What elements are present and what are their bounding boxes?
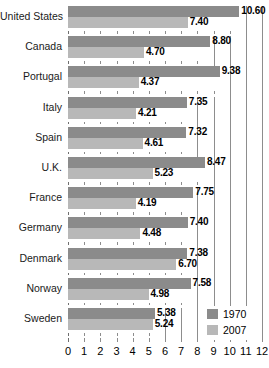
bar-2007	[68, 77, 139, 88]
bar-1970	[68, 97, 187, 108]
bar-2007	[68, 138, 143, 149]
value-label-2007: 4.19	[138, 197, 157, 208]
value-label-2007: 6.70	[178, 258, 197, 269]
bar-2007	[68, 108, 136, 119]
value-label-1970: 7.58	[193, 277, 212, 288]
value-label-2007: 5.23	[155, 167, 174, 178]
row-gap-upper	[68, 300, 191, 303]
x-tick-label: 9	[210, 345, 216, 357]
value-label-2007: 7.40	[190, 16, 209, 27]
row-gap-upper	[68, 149, 186, 152]
x-tick-label: 8	[194, 345, 200, 357]
bar-1970	[68, 36, 210, 47]
value-label-1970: 5.38	[157, 307, 176, 318]
bar-2007	[68, 168, 153, 179]
value-label-1970: 8.80	[212, 35, 231, 46]
x-tick-label: 5	[146, 345, 152, 357]
category-label: Sweden	[0, 312, 62, 324]
x-tick-label: 2	[97, 345, 103, 357]
row-gap-upper	[68, 270, 187, 273]
bar-chart: United StatesCanadaPortugalItalySpainU.K…	[0, 0, 269, 368]
bar-2007	[68, 289, 149, 300]
bar-group: 7.354.21	[68, 97, 262, 127]
bar-group: 7.404.48	[68, 217, 262, 247]
bar-1970	[68, 127, 186, 138]
bar-1970	[68, 308, 155, 319]
value-label-2007: 4.98	[151, 288, 170, 299]
legend-swatch-2007	[207, 325, 218, 335]
x-tick-label: 12	[256, 345, 268, 357]
bar-2007	[68, 198, 136, 209]
bar-2007	[68, 17, 188, 28]
legend-swatch-1970	[207, 309, 218, 319]
bar-1970	[68, 6, 239, 17]
category-label: France	[0, 191, 62, 203]
value-label-2007: 4.37	[141, 76, 160, 87]
value-label-2007: 4.70	[146, 46, 165, 57]
value-label-2007: 4.21	[138, 107, 157, 118]
category-label: Canada	[0, 40, 62, 52]
row-gap-upper	[68, 179, 205, 182]
bar-1970	[68, 248, 187, 259]
row-gap-upper	[68, 119, 187, 122]
bar-1970	[68, 217, 188, 228]
value-label-1970: 8.47	[207, 156, 226, 167]
bar-group: 7.584.98	[68, 278, 262, 308]
bar-2007	[68, 259, 176, 270]
bar-1970	[68, 278, 191, 289]
x-axis: 0123456789101112	[68, 342, 262, 362]
legend-label-1970: 1970	[223, 308, 246, 320]
bar-2007	[68, 47, 144, 58]
bar-group: 7.324.61	[68, 127, 262, 157]
bar-1970	[68, 157, 205, 168]
value-label-1970: 10.60	[241, 5, 265, 16]
x-tick-label: 0	[65, 345, 71, 357]
legend-label-2007: 2007	[223, 324, 246, 336]
x-tick-label: 1	[81, 345, 87, 357]
value-label-1970: 9.38	[222, 65, 241, 76]
value-label-2007: 4.48	[142, 227, 161, 238]
category-axis-labels: United StatesCanadaPortugalItalySpainU.K…	[0, 6, 64, 342]
value-label-1970: 7.75	[195, 186, 214, 197]
bar-group: 8.804.70	[68, 36, 262, 66]
chart-legend: 1970 2007	[206, 306, 248, 340]
x-tick-label: 7	[178, 345, 184, 357]
legend-item-1970: 1970	[207, 307, 246, 321]
bar-2007	[68, 228, 140, 239]
x-tick-label: 11	[240, 345, 251, 357]
gridline-12	[262, 6, 263, 342]
value-label-2007: 5.24	[155, 318, 174, 329]
row-gap-upper	[68, 209, 193, 212]
bar-1970	[68, 187, 193, 198]
value-label-1970: 7.32	[188, 126, 207, 137]
value-label-1970: 7.35	[189, 96, 208, 107]
value-label-1970: 7.40	[190, 216, 209, 227]
row-gap-upper	[68, 330, 155, 333]
x-tick-label: 10	[224, 345, 236, 357]
value-label-1970: 7.38	[189, 247, 208, 258]
row-gap-upper	[68, 28, 239, 31]
x-tick-label: 4	[130, 345, 136, 357]
bar-2007	[68, 319, 153, 330]
category-label: Spain	[0, 131, 62, 143]
category-label: U.K.	[0, 161, 62, 173]
row-gap-upper	[68, 58, 210, 61]
category-label: Denmark	[0, 252, 62, 264]
category-label: Norway	[0, 282, 62, 294]
row-gap-upper	[68, 88, 220, 91]
value-label-2007: 4.61	[145, 137, 164, 148]
category-label: United States	[0, 10, 62, 22]
x-tick-label: 3	[113, 345, 119, 357]
row-gap-lower	[68, 336, 155, 339]
bar-group: 9.384.37	[68, 66, 262, 96]
legend-item-2007: 2007	[207, 323, 246, 337]
bar-group: 7.754.19	[68, 187, 262, 217]
row-gap-upper	[68, 239, 188, 242]
bar-group: 7.386.70	[68, 248, 262, 278]
category-label: Portugal	[0, 70, 62, 82]
category-label: Germany	[0, 221, 62, 233]
x-tick-label: 6	[162, 345, 168, 357]
bar-group: 8.475.23	[68, 157, 262, 187]
plot-area: 10.607.408.804.709.384.377.354.217.324.6…	[68, 6, 262, 342]
bar-group: 10.607.40	[68, 6, 262, 36]
